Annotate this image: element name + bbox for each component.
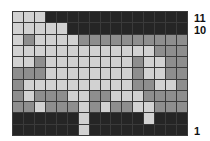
grid-cell [111,35,121,45]
grid-cell [46,102,56,112]
grid-cell [133,113,143,123]
grid-cell [101,12,111,22]
grid-cell [166,46,176,56]
grid-cell [122,12,132,22]
grid-cell [13,68,23,78]
grid-cell [177,91,187,101]
grid-cell [155,57,165,67]
grid-cell [177,80,187,90]
grid-cell [79,57,89,67]
grid-cell [144,125,154,135]
grid-cell [144,91,154,101]
grid-cell [46,80,56,90]
grid-cell [35,23,45,33]
grid-cell [101,80,111,90]
grid-cell [133,46,143,56]
grid-cell [122,68,132,78]
grid-cell [68,80,78,90]
grid-cell [166,91,176,101]
grid-cell [35,113,45,123]
grid-cell [155,12,165,22]
grid-cell [155,46,165,56]
row-label-1: 1 [194,126,200,137]
grid-cell [177,46,187,56]
grid-cell [90,102,100,112]
grid-cell [111,46,121,56]
grid-cell [133,102,143,112]
grid-cell [166,35,176,45]
grid-cell [35,125,45,135]
grid-cell [35,12,45,22]
grid-cell [144,68,154,78]
grid-cell [101,46,111,56]
grid-cell [101,102,111,112]
grid-cell [35,68,45,78]
grid-cell [68,35,78,45]
grid-cell [177,102,187,112]
grid-cell [155,35,165,45]
grid-cell [133,91,143,101]
grid-cell [122,113,132,123]
grid-cell [68,113,78,123]
grid-cell [90,46,100,56]
grid-cell [111,91,121,101]
grid-cell [13,46,23,56]
grid-cell [133,125,143,135]
grid-cell [57,68,67,78]
grid-cell [79,125,89,135]
grid-cell [90,113,100,123]
grid-cell [111,113,121,123]
grid-cell [68,12,78,22]
grid-cell [133,12,143,22]
grid-cell [57,12,67,22]
grid-cell [144,80,154,90]
grid-cell [133,23,143,33]
grid-cell [24,23,34,33]
grid-cell [13,125,23,135]
grid-cell [101,23,111,33]
grid-cell [101,125,111,135]
grid-cell [111,125,121,135]
grid-cell [79,35,89,45]
grid-cell [90,125,100,135]
chart-grid [12,11,188,136]
grid-cell [101,91,111,101]
grid-cell [111,68,121,78]
grid-cell [68,91,78,101]
grid-cell [35,46,45,56]
grid-cell [133,80,143,90]
grid-cell [24,46,34,56]
grid-cell [79,113,89,123]
grid-cell [122,57,132,67]
grid-cell [57,35,67,45]
grid-cell [177,125,187,135]
grid-cell [13,80,23,90]
grid-cell [13,102,23,112]
grid-cell [155,102,165,112]
grid-cell [177,35,187,45]
grid-cell [13,91,23,101]
grid-cell [122,35,132,45]
grid-cell [166,113,176,123]
grid-cell [57,23,67,33]
grid-cell [166,80,176,90]
grid-cell [166,68,176,78]
grid-cell [144,113,154,123]
grid-cell [46,35,56,45]
grid-cell [144,102,154,112]
grid-cell [111,102,121,112]
grid-cell [79,12,89,22]
grid-cell [57,113,67,123]
grid-cell [46,57,56,67]
grid-cell [13,12,23,22]
grid-cell [122,80,132,90]
grid-cell [46,113,56,123]
grid-cell [46,125,56,135]
grid-cell [177,57,187,67]
grid-cell [46,23,56,33]
grid-cell [133,35,143,45]
grid-cell [24,68,34,78]
grid-cell [79,23,89,33]
grid-cell [101,68,111,78]
grid-cell [155,91,165,101]
